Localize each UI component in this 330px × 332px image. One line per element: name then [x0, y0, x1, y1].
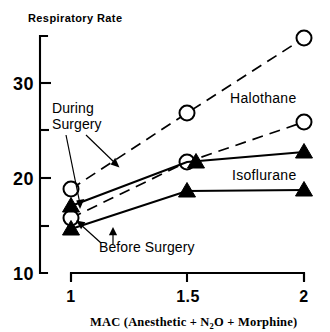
- data-point-marker: [296, 144, 313, 159]
- data-point-marker: [297, 115, 312, 130]
- x-tick-label-2: 2: [299, 288, 308, 305]
- y-tick-label-20: 20: [13, 169, 34, 189]
- annotation-during-surgery-line2: Surgery: [52, 116, 102, 132]
- x-axis-label-text: MAC (Anesthetic + N2O + Morphine): [90, 315, 297, 331]
- chart-title: Respiratory Rate: [28, 12, 122, 24]
- annotation-before-surgery: Before Surgery: [76, 221, 195, 256]
- annotation-during-surgery: During Surgery: [52, 100, 120, 209]
- series-label-halothane: Halothane: [230, 90, 297, 106]
- y-tick-label-10: 10: [13, 264, 34, 284]
- y-tick-label-30: 30: [13, 74, 34, 94]
- respiratory-rate-line-chart: 30 20 10 1 1.5 2 Respiratory Rate MAC (A…: [0, 0, 330, 332]
- arrowhead: [109, 227, 117, 235]
- x-tick-label-1: 1: [66, 288, 75, 305]
- data-point-marker: [180, 106, 195, 121]
- chart-figure: 30 20 10 1 1.5 2 Respiratory Rate MAC (A…: [0, 0, 330, 332]
- y-axis-line: [40, 36, 47, 273]
- x-axis-label: MAC (Anesthetic + N2O + Morphine): [90, 315, 297, 331]
- annotation-during-surgery-line1: During: [52, 100, 94, 116]
- x-axis-label-post: O + Morphine): [214, 315, 297, 329]
- data-point-marker: [297, 31, 312, 46]
- series-label-isoflurane: Isoflurane: [232, 167, 296, 183]
- series-isoflurane-before-surgery: [63, 182, 313, 236]
- annotation-during-arrow-2: [86, 135, 116, 164]
- x-tick-label-1p5: 1.5: [176, 288, 200, 305]
- data-point-marker: [179, 183, 196, 198]
- annotation-before-arrow-1: [80, 224, 101, 243]
- data-point-marker: [296, 182, 313, 197]
- x-axis-label-pre: MAC (Anesthetic + N: [90, 315, 210, 329]
